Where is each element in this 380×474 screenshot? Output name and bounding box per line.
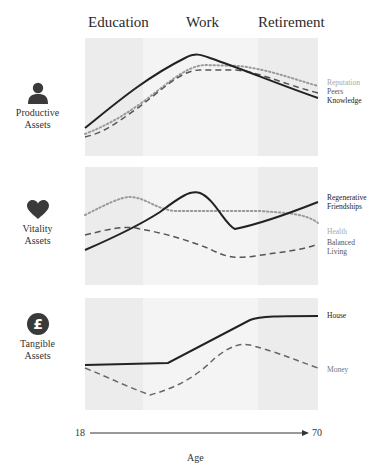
line-house: [85, 316, 318, 365]
legend-knowledge: Knowledge: [327, 96, 362, 105]
panel-productive: [85, 38, 318, 156]
line-balanced-living: [85, 227, 318, 257]
row-label-line1: Tangible: [20, 338, 55, 349]
legend-reputation: Reputation: [327, 78, 360, 87]
legend-regenerative: Regenerative: [327, 193, 367, 202]
line-money: [85, 344, 318, 395]
axis-title: Age: [187, 452, 204, 463]
panel-vitality: [85, 167, 318, 285]
legend-peers: Peers: [327, 87, 343, 96]
row-label-line2: Assets: [24, 119, 50, 130]
row-label-line1: Vitality: [23, 223, 53, 234]
legend-house: House: [327, 311, 346, 320]
row-label-line1: Productive: [16, 107, 59, 118]
row-label-line2: Assets: [24, 350, 50, 361]
age-arrow: [88, 428, 310, 438]
vitality-lines: [85, 167, 318, 285]
phase-work: Work: [186, 14, 219, 31]
legend-money: Money: [327, 365, 348, 374]
row-label-line2: Assets: [24, 235, 50, 246]
line-peers: [85, 70, 318, 137]
person-icon: [27, 82, 49, 104]
row-label-vitality: Vitality Assets: [0, 200, 75, 247]
axis-end-label: 70: [312, 427, 322, 438]
legend-living: Living: [327, 247, 347, 256]
line-regenerative-friendships: [85, 192, 318, 250]
panel-tangible: [85, 298, 318, 410]
legend-friendships: Friendships: [327, 202, 362, 211]
row-label-tangible: £ Tangible Assets: [0, 313, 75, 362]
phase-education: Education: [88, 14, 149, 31]
legend-health: Health: [327, 227, 347, 236]
row-label-productive: Productive Assets: [0, 82, 75, 131]
tangible-lines: [85, 298, 318, 410]
svg-text:£: £: [33, 316, 43, 332]
productive-lines: [85, 38, 318, 156]
pound-icon: £: [27, 313, 49, 335]
phase-retirement: Retirement: [258, 14, 325, 31]
line-health: [85, 197, 318, 223]
axis-start-label: 18: [75, 427, 85, 438]
heart-icon: [27, 200, 49, 220]
legend-balanced: Balanced: [327, 238, 355, 247]
